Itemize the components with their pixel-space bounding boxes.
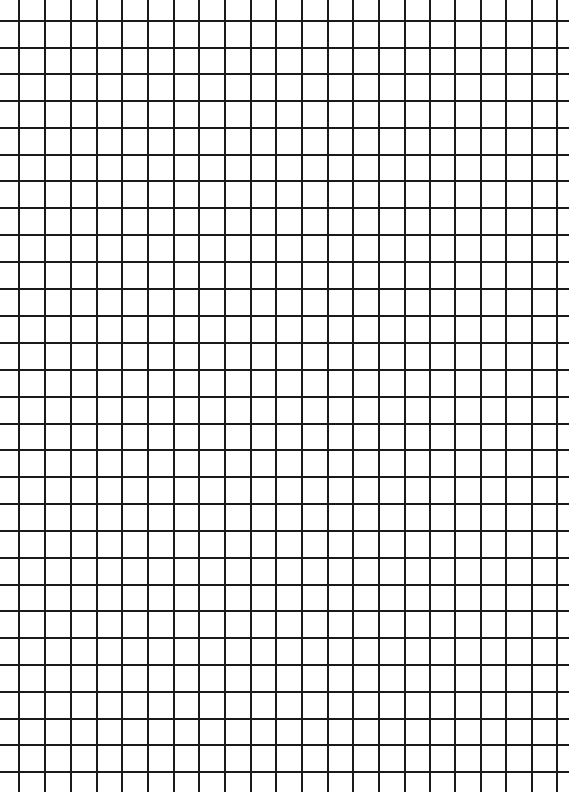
grid-horizontal-line — [0, 476, 569, 478]
grid-horizontal-line — [0, 234, 569, 236]
grid-horizontal-line — [0, 771, 569, 773]
grid-horizontal-line — [0, 100, 569, 102]
grid-horizontal-line — [0, 744, 569, 746]
grid-horizontal-line — [0, 449, 569, 451]
grid-horizontal-line — [0, 342, 569, 344]
grid-horizontal-line — [0, 637, 569, 639]
grid-horizontal-line — [0, 718, 569, 720]
grid-horizontal-line — [0, 530, 569, 532]
grid-horizontal-line — [0, 423, 569, 425]
grid-horizontal-line — [0, 691, 569, 693]
grid-horizontal-line — [0, 20, 569, 22]
grid-horizontal-line — [0, 73, 569, 75]
grid-horizontal-line — [0, 315, 569, 317]
grid-horizontal-line — [0, 207, 569, 209]
grid-horizontal-line — [0, 610, 569, 612]
grid-horizontal-line — [0, 288, 569, 290]
grid-horizontal-line — [0, 664, 569, 666]
grid-horizontal-line — [0, 369, 569, 371]
grid-horizontal-line — [0, 261, 569, 263]
grid-horizontal-line — [0, 127, 569, 129]
grid-horizontal-line — [0, 47, 569, 49]
grid-paper-sheet — [0, 0, 569, 792]
grid-horizontal-line — [0, 503, 569, 505]
grid-horizontal-line — [0, 584, 569, 586]
grid-horizontal-line — [0, 557, 569, 559]
grid-horizontal-line — [0, 154, 569, 156]
grid-horizontal-line — [0, 180, 569, 182]
grid-horizontal-line — [0, 396, 569, 398]
